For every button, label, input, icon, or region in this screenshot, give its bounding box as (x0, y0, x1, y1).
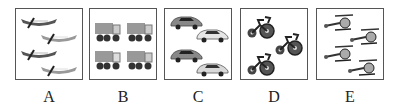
car-icon (195, 61, 229, 77)
tricycle-icon (246, 51, 276, 77)
option-a-label: A (15, 88, 83, 106)
tricycle-icon (274, 31, 304, 57)
car-icon (195, 27, 229, 43)
helicopter-icon (349, 28, 381, 46)
option-c-label: C (164, 88, 232, 106)
canoe-icon (20, 47, 58, 61)
dump-truck-icon (94, 21, 122, 43)
option-b-panel[interactable] (89, 8, 157, 80)
helicopter-icon (347, 59, 379, 77)
option-b-label: B (89, 88, 157, 106)
option-a-panel[interactable] (15, 8, 83, 80)
dump-truck-icon (126, 49, 154, 71)
option-d-panel[interactable] (240, 8, 308, 80)
dump-truck-icon (94, 49, 122, 71)
option-e-panel[interactable] (316, 8, 384, 80)
option-c-panel[interactable] (164, 8, 232, 80)
tricycle-icon (246, 14, 276, 40)
canoe-icon (20, 15, 58, 29)
canoe-icon (40, 63, 78, 77)
dump-truck-icon (126, 21, 154, 43)
canoe-icon (40, 31, 78, 45)
option-e-label: E (316, 88, 384, 106)
option-d-label: D (240, 88, 308, 106)
